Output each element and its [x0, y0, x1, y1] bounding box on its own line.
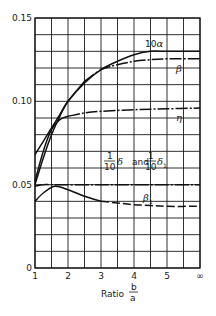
y-axis-ticks: 00.050.100.15	[12, 13, 32, 273]
label-eta: η	[176, 112, 182, 123]
label-beta1: β 1	[142, 192, 153, 205]
svg-text:a: a	[130, 293, 136, 303]
svg-text:β: β	[142, 192, 149, 203]
y-tick-label: 0.15	[12, 13, 32, 23]
x-axis-ticks: 12345∞	[32, 271, 204, 281]
label-10alpha: 10α	[145, 38, 163, 49]
svg-text:1: 1	[148, 151, 154, 161]
x-tick-label: 2	[65, 271, 71, 281]
svg-text:δ: δ	[117, 156, 123, 167]
line-chart: 00.050.100.15 12345∞ 10α β η 1 10 δ and …	[0, 0, 216, 316]
label-delta: 1 10 δ and 1 10 δ 1	[104, 151, 167, 172]
svg-text:1: 1	[163, 162, 167, 169]
svg-text:Ratio: Ratio	[101, 289, 125, 299]
svg-text:1: 1	[149, 198, 153, 205]
svg-text:b: b	[131, 282, 137, 292]
curve---solid	[35, 81, 85, 184]
svg-text:10: 10	[145, 162, 157, 172]
x-tick-label: 4	[131, 271, 137, 281]
svg-text:1: 1	[107, 151, 113, 161]
curve---dashed	[85, 59, 201, 82]
y-tick-label: 0.10	[12, 96, 32, 106]
svg-text:10: 10	[104, 162, 116, 172]
y-tick-label: 0.05	[12, 180, 32, 190]
grid-lines	[35, 18, 200, 268]
x-tick-label: 3	[98, 271, 104, 281]
x-tick-label: 1	[32, 271, 38, 281]
x-tick-label: 5	[164, 271, 170, 281]
x-tick-label: ∞	[196, 271, 204, 281]
x-axis-title: Ratio b a	[101, 282, 138, 303]
label-beta: β	[175, 63, 182, 74]
